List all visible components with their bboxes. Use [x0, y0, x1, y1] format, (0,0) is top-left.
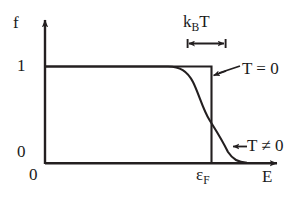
- fermi-energy-tick-label: εF: [196, 166, 210, 187]
- kbt-symbol-t: T: [199, 12, 209, 31]
- fermi-curve-t-nonzero: [45, 67, 262, 164]
- kbt-symbol-k: k: [183, 12, 192, 31]
- y-tick-label-zero: 0: [17, 143, 26, 160]
- t-zero-pointer-arrow: [214, 71, 227, 76]
- y-axis-label: f: [13, 14, 19, 31]
- fermi-energy-subscript: F: [203, 174, 209, 187]
- step-curve-t-zero: [45, 67, 212, 164]
- x-axis-label: E: [262, 168, 272, 185]
- t-nonzero-annotation-label: T ≠ 0: [247, 137, 283, 154]
- y-tick-label-one: 1: [17, 57, 26, 74]
- x-axis-origin-label: 0: [29, 166, 38, 183]
- t-zero-annotation-label: T = 0: [242, 60, 279, 77]
- diagram-canvas: [0, 0, 296, 202]
- kbt-annotation-label: kBT: [183, 13, 210, 34]
- fermi-dirac-diagram: f 1 0 0 E εF kBT T = 0 T ≠ 0: [0, 0, 296, 202]
